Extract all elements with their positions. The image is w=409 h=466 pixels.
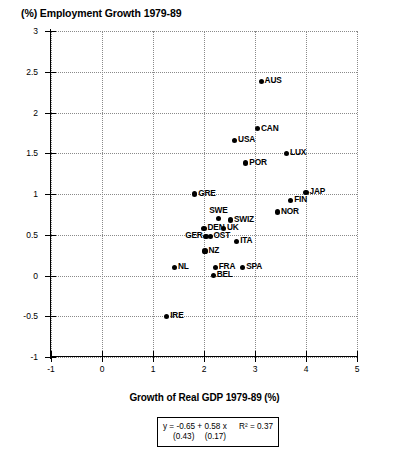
x-axis-tick-label: -1 bbox=[36, 364, 66, 374]
r-squared-value: R² = 0.37 bbox=[239, 422, 273, 431]
y-axis-tick-label: 0 bbox=[4, 271, 38, 281]
gridline-vertical bbox=[357, 31, 358, 357]
x-axis-tick bbox=[102, 351, 103, 362]
gridline-horizontal bbox=[51, 72, 357, 73]
regression-equation-line: y = -0.65 + 0.58 x R² = 0.37 bbox=[163, 422, 273, 431]
gridline-horizontal bbox=[51, 316, 357, 317]
regression-equation: y = -0.65 + 0.58 x bbox=[163, 422, 227, 431]
x-axis-tick bbox=[204, 351, 205, 362]
data-point-label: SPA bbox=[246, 261, 262, 271]
y-axis-tick-label: 2 bbox=[4, 108, 38, 118]
y-axis-tick-label: 1 bbox=[4, 189, 38, 199]
data-point-marker bbox=[232, 138, 237, 143]
x-axis-tick-label: 5 bbox=[342, 364, 372, 374]
data-point-marker bbox=[202, 248, 207, 253]
y-axis-tick-label: 3 bbox=[4, 26, 38, 36]
se-intercept: (0.43) bbox=[173, 432, 194, 441]
y-axis-tick bbox=[45, 72, 56, 73]
regression-standard-errors: (0.43) (0.17) bbox=[163, 432, 273, 441]
y-axis-tick bbox=[45, 276, 56, 277]
data-point-label: IRE bbox=[170, 310, 183, 320]
chart-title: (%) Employment Growth 1979-89 bbox=[21, 7, 181, 19]
y-axis-tick-label: 2.5 bbox=[4, 67, 38, 77]
gridline-horizontal bbox=[51, 31, 357, 32]
y-axis-tick-label: -1 bbox=[4, 352, 38, 362]
data-point-label: GRE bbox=[198, 188, 215, 198]
y-axis-tick bbox=[45, 153, 56, 154]
se-slope: (0.17) bbox=[205, 432, 226, 441]
regression-equation-box: y = -0.65 + 0.58 x R² = 0.37 (0.43) (0.1… bbox=[157, 417, 279, 447]
scatter-chart-figure: (%) Employment Growth 1979-89 -1-0.500.5… bbox=[0, 0, 409, 466]
data-point-label: LUX bbox=[290, 147, 306, 157]
data-point-label: NL bbox=[178, 261, 189, 271]
x-axis-tick bbox=[255, 351, 256, 362]
x-axis-tick bbox=[306, 351, 307, 362]
data-point-label: FIN bbox=[294, 194, 307, 204]
x-axis-title: Growth of Real GDP 1979-89 (%) bbox=[0, 392, 409, 403]
data-point-marker bbox=[172, 265, 177, 270]
data-point-marker bbox=[259, 79, 264, 84]
x-axis-tick-label: 4 bbox=[291, 364, 321, 374]
data-point-marker bbox=[211, 273, 216, 278]
y-axis-tick-label: -0.5 bbox=[4, 311, 38, 321]
data-point-label: NZ bbox=[209, 245, 220, 255]
y-axis-tick bbox=[45, 31, 56, 32]
x-axis-tick bbox=[51, 351, 52, 362]
data-point-label: GER bbox=[185, 230, 202, 240]
data-point-marker bbox=[216, 216, 221, 221]
x-axis-tick-label: 2 bbox=[189, 364, 219, 374]
data-point-label: AUS bbox=[265, 75, 282, 85]
x-axis-tick-label: 1 bbox=[138, 364, 168, 374]
x-axis-tick bbox=[153, 351, 154, 362]
data-point-marker bbox=[275, 209, 280, 214]
data-point-label: USA bbox=[238, 134, 255, 144]
y-axis-tick bbox=[45, 113, 56, 114]
x-axis-tick bbox=[357, 351, 358, 362]
x-axis-tick-label: 3 bbox=[240, 364, 270, 374]
y-axis-tick-label: 0.5 bbox=[4, 230, 38, 240]
data-point-label: BEL bbox=[217, 269, 233, 279]
y-axis-tick bbox=[45, 316, 56, 317]
data-point-marker bbox=[284, 151, 289, 156]
y-axis-tick bbox=[45, 194, 56, 195]
y-axis-tick-label: 1.5 bbox=[4, 148, 38, 158]
gridline-horizontal bbox=[51, 113, 357, 114]
data-point-label: OST bbox=[214, 230, 230, 240]
data-point-marker bbox=[234, 239, 239, 244]
data-point-label: SWE bbox=[209, 205, 227, 215]
data-point-label: ITA bbox=[240, 235, 252, 245]
data-point-label: POR bbox=[249, 157, 266, 167]
gridline-horizontal bbox=[51, 153, 357, 154]
data-point-marker bbox=[192, 191, 197, 196]
gridline-horizontal bbox=[51, 276, 357, 277]
x-axis-tick-label: 0 bbox=[87, 364, 117, 374]
data-point-marker bbox=[203, 234, 208, 239]
y-axis-tick bbox=[45, 235, 56, 236]
data-point-label: CAN bbox=[261, 123, 278, 133]
data-point-label: NOR bbox=[281, 206, 299, 216]
data-point-label: JAP bbox=[310, 186, 326, 196]
